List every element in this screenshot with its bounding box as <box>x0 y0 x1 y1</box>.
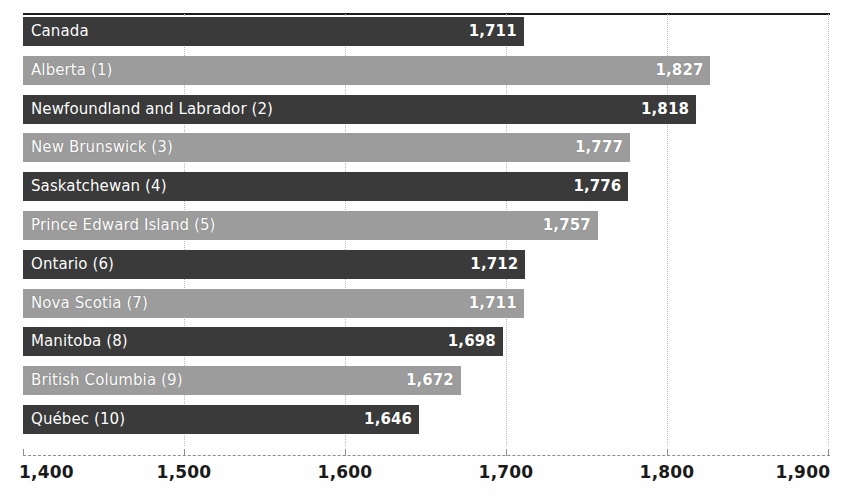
bar-category-label: Canada <box>31 24 89 39</box>
bar-chart: Canada1,711Alberta (1)1,827Newfoundland … <box>0 0 842 504</box>
bar-row: Saskatchewan (4)1,776 <box>23 172 628 201</box>
x-axis-tick-label: 1,900 <box>775 462 830 482</box>
bar-category-label: Nova Scotia (7) <box>31 296 148 311</box>
bar-value-label: 1,672 <box>396 373 454 388</box>
bar: Newfoundland and Labrador (2)1,818 <box>23 95 696 124</box>
bar-row: Nova Scotia (7)1,711 <box>23 289 524 318</box>
bar-row: Newfoundland and Labrador (2)1,818 <box>23 95 696 124</box>
bar: Nova Scotia (7)1,711 <box>23 289 524 318</box>
x-axis-tick <box>828 449 829 456</box>
bar-value-label: 1,757 <box>533 218 591 233</box>
bar: Ontario (6)1,712 <box>23 250 525 279</box>
bar-value-label: 1,698 <box>438 334 496 349</box>
bar-row: Québec (10)1,646 <box>23 405 419 434</box>
bar-value-label: 1,711 <box>459 24 517 39</box>
bar: Saskatchewan (4)1,776 <box>23 172 628 201</box>
bar-row: Canada1,711 <box>23 17 524 46</box>
bar-value-label: 1,776 <box>563 179 621 194</box>
bar: Canada1,711 <box>23 17 524 46</box>
bar-category-label: British Columbia (9) <box>31 373 183 388</box>
bar: Prince Edward Island (5)1,757 <box>23 211 598 240</box>
bar-row: Prince Edward Island (5)1,757 <box>23 211 598 240</box>
x-axis-tick-label: 1,800 <box>640 462 695 482</box>
x-axis-tick <box>667 449 668 456</box>
bar-category-label: Manitoba (8) <box>31 334 128 349</box>
bar-category-label: Newfoundland and Labrador (2) <box>31 102 273 117</box>
bar-category-label: Québec (10) <box>31 412 125 427</box>
x-axis-tick <box>506 449 507 456</box>
bar: Alberta (1)1,827 <box>23 56 710 85</box>
x-axis-tick-label: 1,400 <box>19 462 74 482</box>
bar-value-label: 1,712 <box>460 257 518 272</box>
bar: Manitoba (8)1,698 <box>23 327 503 356</box>
x-axis-tick-label: 1,600 <box>318 462 373 482</box>
plot-area: Canada1,711Alberta (1)1,827Newfoundland … <box>23 14 828 446</box>
bar: Québec (10)1,646 <box>23 405 419 434</box>
bar-category-label: New Brunswick (3) <box>31 140 173 155</box>
x-axis-tick <box>23 449 24 456</box>
bar-value-label: 1,646 <box>354 412 412 427</box>
x-axis-tick-label: 1,700 <box>479 462 534 482</box>
bar-row: British Columbia (9)1,672 <box>23 366 461 395</box>
bar-row: Manitoba (8)1,698 <box>23 327 503 356</box>
bar: British Columbia (9)1,672 <box>23 366 461 395</box>
bar-row: New Brunswick (3)1,777 <box>23 133 630 162</box>
bar-value-label: 1,827 <box>646 63 704 78</box>
bar-row: Ontario (6)1,712 <box>23 250 525 279</box>
bar-value-label: 1,711 <box>459 296 517 311</box>
bar-category-label: Ontario (6) <box>31 257 114 272</box>
bar: New Brunswick (3)1,777 <box>23 133 630 162</box>
x-axis-tick <box>345 449 346 456</box>
bar-value-label: 1,777 <box>565 140 623 155</box>
bar-row: Alberta (1)1,827 <box>23 56 710 85</box>
gridline <box>828 14 830 446</box>
bar-category-label: Alberta (1) <box>31 63 113 78</box>
x-axis-tick <box>184 449 185 456</box>
bar-category-label: Saskatchewan (4) <box>31 179 167 194</box>
bar-value-label: 1,818 <box>631 102 689 117</box>
x-axis-line <box>23 455 830 456</box>
x-axis-tick-label: 1,500 <box>157 462 212 482</box>
bar-category-label: Prince Edward Island (5) <box>31 218 216 233</box>
